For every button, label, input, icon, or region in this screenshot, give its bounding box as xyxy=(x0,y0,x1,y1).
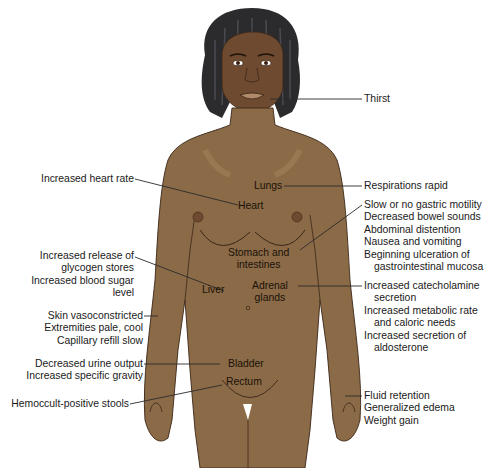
label-line: Abdominal distention xyxy=(364,224,483,236)
label-line: Increased release of xyxy=(31,250,134,262)
label-line: Fluid retention xyxy=(364,390,455,402)
label-line: gastrointestinal mucosa xyxy=(364,261,483,273)
label-line: Respirations rapid xyxy=(364,180,448,192)
organ-label-liver: Liver xyxy=(202,284,225,296)
label-line: Decreased urine output xyxy=(26,358,143,370)
label-heart-effects: Increased heart rate xyxy=(41,173,134,185)
label-line: Increased blood sugar xyxy=(31,275,134,287)
label-line: Increased secretion of xyxy=(364,330,480,342)
label-line: Increased heart rate xyxy=(41,173,134,185)
label-line: Weight gain xyxy=(364,415,455,427)
label-line: Nausea and vomiting xyxy=(364,236,483,248)
label-bladder-effects: Decreased urine output Increased specifi… xyxy=(26,358,143,383)
label-line: secretion xyxy=(364,292,480,304)
label-line: and caloric needs xyxy=(364,317,480,329)
organ-label-lungs: Lungs xyxy=(254,180,282,192)
label-line: Increased specific gravity xyxy=(26,370,143,382)
label-line: level xyxy=(31,287,134,299)
label-line: aldosterone xyxy=(364,342,480,354)
face xyxy=(222,32,283,112)
label-line: Decreased bowel sounds xyxy=(364,211,483,223)
label-line: Slow or no gastric motility xyxy=(364,199,483,211)
label-rectum-effects: Hemoccult-positive stools xyxy=(11,398,129,410)
organ-label-adrenal: Adrenal glands xyxy=(252,280,288,305)
organ-label-stomach-line1: Stomach and xyxy=(228,247,289,259)
label-line: Increased metabolic rate xyxy=(364,305,480,317)
label-line: Generalized edema xyxy=(364,402,455,414)
label-line: Beginning ulceration of xyxy=(364,249,483,261)
label-fluid-effects: Fluid retention Generalized edema Weight… xyxy=(364,390,455,427)
organ-label-stomach: Stomach and intestines xyxy=(228,247,289,272)
organ-label-adrenal-line2: glands xyxy=(252,292,288,304)
label-adrenal-effects: Increased catecholamine secretion Increa… xyxy=(364,280,480,354)
label-line: Hemoccult-positive stools xyxy=(11,398,129,410)
label-line: Extremities pale, cool xyxy=(44,322,143,334)
label-line: Skin vasoconstricted xyxy=(44,310,143,322)
label-line: Thirst xyxy=(364,93,390,105)
label-liver-effects: Increased release of glycogen stores Inc… xyxy=(31,250,134,300)
organ-label-adrenal-line1: Adrenal xyxy=(252,280,288,292)
organ-label-bladder: Bladder xyxy=(228,358,264,370)
label-line: glycogen stores xyxy=(31,262,134,274)
label-line: Capillary refill slow xyxy=(44,335,143,347)
label-lungs-effects: Respirations rapid xyxy=(364,180,448,192)
label-line: Increased catecholamine xyxy=(364,280,480,292)
label-gi-effects: Slow or no gastric motility Decreased bo… xyxy=(364,199,483,273)
organ-label-heart: Heart xyxy=(238,200,263,212)
label-skin-effects: Skin vasoconstricted Extremities pale, c… xyxy=(44,310,143,347)
organ-label-rectum: Rectum xyxy=(226,376,262,388)
label-thirst: Thirst xyxy=(364,93,390,105)
organ-label-stomach-line2: intestines xyxy=(228,259,289,271)
